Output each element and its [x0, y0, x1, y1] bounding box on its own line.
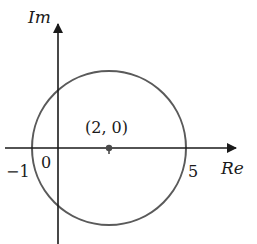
imaginary-axis-label: Im [27, 7, 51, 27]
origin-label: 0 [41, 153, 51, 172]
complex-plane-diagram: Im Re (2, 0) 0 −1 5 [0, 0, 257, 244]
diagram-canvas: Im Re (2, 0) 0 −1 5 [0, 0, 257, 244]
center-point-label: (2, 0) [85, 118, 128, 137]
real-axis-label: Re [220, 158, 244, 178]
left-intercept-label: −1 [6, 162, 30, 181]
right-intercept-label: 5 [188, 162, 198, 181]
